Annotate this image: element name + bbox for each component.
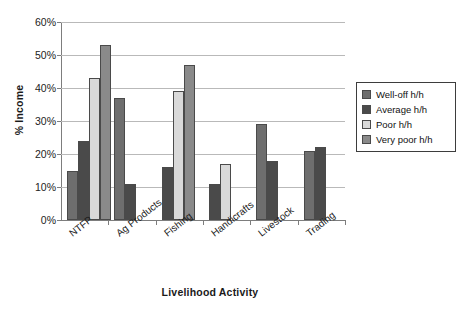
y-tick-mark [57, 154, 61, 155]
bar [267, 161, 278, 220]
legend-item[interactable]: Poor h/h [362, 117, 451, 132]
y-tick-label: 50% [22, 50, 56, 60]
bar [184, 65, 195, 220]
bar [114, 98, 125, 220]
bars-layer [62, 22, 346, 220]
bar [173, 91, 184, 220]
bar [100, 45, 111, 220]
bar [67, 171, 78, 221]
legend-label: Well-off h/h [376, 89, 424, 100]
y-tick-label: 30% [22, 116, 56, 126]
y-tick-mark [57, 121, 61, 122]
bar-chart: % Income 0%10%20%30%40%50%60% NTFPAg Pro… [0, 0, 463, 309]
chart-legend: Well-off h/hAverage h/hPoor h/hVery poor… [356, 82, 456, 152]
legend-label: Poor h/h [376, 119, 412, 130]
y-tick-label: 0% [22, 215, 56, 225]
bar [304, 151, 315, 220]
y-axis-tick-labels: 0%10%20%30%40%50%60% [22, 0, 56, 309]
legend-label: Average h/h [376, 104, 427, 115]
bar [78, 141, 89, 220]
y-tick-mark [57, 187, 61, 188]
y-tick-mark [57, 22, 61, 23]
y-tick-mark [57, 88, 61, 89]
bar [256, 124, 267, 220]
legend-item[interactable]: Well-off h/h [362, 87, 451, 102]
bar [162, 167, 173, 220]
legend-item[interactable]: Average h/h [362, 102, 451, 117]
x-axis-category-labels: NTFPAg ProductsFishingHandicraftsLivesto… [61, 220, 345, 290]
y-tick-label: 60% [22, 17, 56, 27]
legend-swatch-icon [362, 105, 371, 114]
plot-area [61, 22, 345, 220]
x-axis-title: Livelihood Activity [0, 286, 420, 298]
bar [315, 147, 326, 220]
legend-label: Very poor h/h [376, 134, 433, 145]
bar [89, 78, 100, 220]
y-tick-mark [57, 55, 61, 56]
x-tick-mark [345, 220, 346, 225]
bar [220, 164, 231, 220]
legend-swatch-icon [362, 90, 371, 99]
y-tick-label: 10% [22, 182, 56, 192]
legend-item[interactable]: Very poor h/h [362, 132, 451, 147]
legend-swatch-icon [362, 135, 371, 144]
legend-swatch-icon [362, 120, 371, 129]
y-tick-label: 40% [22, 83, 56, 93]
bar [209, 184, 220, 220]
y-tick-label: 20% [22, 149, 56, 159]
